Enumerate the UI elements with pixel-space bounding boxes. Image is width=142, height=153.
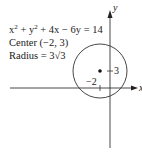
x-tick-label: −2 [86,76,97,88]
center-point [98,69,102,73]
equation-label: x2 + y2 + 4x − 6y = 14 [9,24,103,36]
x-axis-label: x [139,82,142,94]
radius-label: Radius = 3√3 [9,50,66,62]
coordinate-plane [0,0,142,153]
y-axis-label: y [113,2,117,14]
x-axis-arrow-icon [131,86,138,91]
y-axis-arrow-icon [108,10,113,18]
y-tick-label: 3 [114,65,119,77]
center-label: Center (−2, 3) [9,37,68,49]
